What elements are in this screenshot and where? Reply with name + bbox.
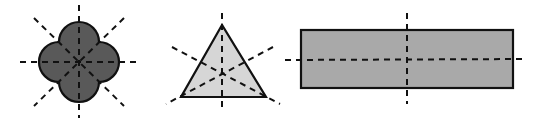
quatrefoil-group	[20, 5, 138, 118]
symmetry-figure	[0, 0, 548, 125]
triangle-group	[166, 13, 280, 112]
triangle-shape	[181, 25, 266, 97]
rectangle-group	[285, 13, 526, 104]
